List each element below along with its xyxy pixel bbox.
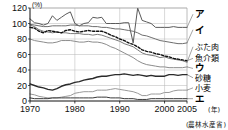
series-leader-line-6: [187, 75, 193, 78]
series-label-3: ぶた肉: [195, 42, 219, 52]
x-axis-tick-label: 1970: [20, 104, 40, 114]
chart-container: 020406080100120(%)19701980199020002005(年…: [0, 0, 228, 130]
x-axis-unit-label: (年): [208, 105, 220, 114]
source-attribution: (農林水産省): [186, 120, 226, 129]
y-axis-tick-label: 120: [12, 3, 27, 13]
series-label-5: ウ: [195, 62, 205, 73]
line-chart-svg: 020406080100120(%)19701980199020002005(年…: [0, 0, 228, 130]
series-leader-line-3: [187, 47, 193, 63]
y-axis-tick-label: 100: [12, 19, 27, 29]
x-axis-tick-label: 2000: [155, 104, 175, 114]
x-axis-tick-label: 1990: [110, 104, 130, 114]
y-axis-tick-label: 60: [17, 50, 27, 60]
y-axis-tick-label: 20: [17, 81, 27, 91]
series-leader-line-7: [187, 88, 193, 90]
series-label-7: 小麦: [195, 83, 211, 93]
x-axis-tick-label: 1980: [65, 104, 85, 114]
series-leader-line-5: [187, 67, 193, 69]
y-axis-unit-label: (%): [32, 1, 42, 9]
series-leader-line-2: [187, 30, 193, 43]
series-label-8: エ: [195, 93, 205, 104]
x-axis-tick-label: 2005: [177, 104, 197, 114]
series-label-6: 砂糖: [195, 73, 211, 83]
y-axis-tick-label: 40: [17, 65, 27, 75]
series-leader-line-1: [187, 14, 193, 27]
y-axis-tick-label: 80: [17, 34, 27, 44]
series-label-2: イ: [195, 24, 205, 35]
series-label-1: ア: [195, 8, 205, 19]
